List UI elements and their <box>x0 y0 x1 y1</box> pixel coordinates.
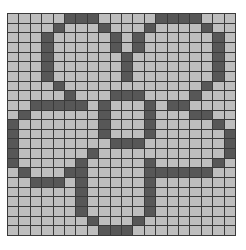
grid-cell[interactable] <box>31 168 41 177</box>
grid-cell[interactable] <box>133 149 143 158</box>
grid-cell[interactable] <box>202 130 212 139</box>
grid-cell[interactable] <box>133 197 143 206</box>
grid-cell[interactable] <box>133 82 143 91</box>
grid-cell[interactable] <box>111 111 121 120</box>
grid-cell[interactable] <box>202 188 212 197</box>
grid-cell[interactable] <box>156 14 166 23</box>
grid-cell[interactable] <box>19 217 29 226</box>
grid-cell[interactable] <box>65 197 75 206</box>
grid-cell[interactable] <box>8 197 18 206</box>
grid-cell[interactable] <box>179 217 189 226</box>
grid-cell[interactable] <box>88 197 98 206</box>
grid-cell[interactable] <box>225 14 235 23</box>
grid-cell[interactable] <box>190 168 200 177</box>
grid-cell[interactable] <box>31 178 41 187</box>
grid-cell[interactable] <box>190 120 200 129</box>
grid-cell[interactable] <box>213 53 223 62</box>
grid-cell[interactable] <box>156 207 166 216</box>
grid-cell[interactable] <box>145 120 155 129</box>
grid-cell[interactable] <box>111 197 121 206</box>
grid-cell[interactable] <box>168 82 178 91</box>
grid-cell[interactable] <box>190 101 200 110</box>
grid-cell[interactable] <box>133 14 143 23</box>
grid-cell[interactable] <box>179 159 189 168</box>
grid-cell[interactable] <box>99 14 109 23</box>
grid-cell[interactable] <box>202 62 212 71</box>
grid-cell[interactable] <box>8 43 18 52</box>
grid-cell[interactable] <box>111 159 121 168</box>
grid-cell[interactable] <box>42 168 52 177</box>
grid-cell[interactable] <box>202 82 212 91</box>
grid-cell[interactable] <box>65 62 75 71</box>
grid-cell[interactable] <box>76 168 86 177</box>
grid-cell[interactable] <box>88 62 98 71</box>
grid-cell[interactable] <box>111 217 121 226</box>
grid-cell[interactable] <box>76 139 86 148</box>
grid-cell[interactable] <box>190 111 200 120</box>
grid-cell[interactable] <box>145 207 155 216</box>
grid-cell[interactable] <box>76 43 86 52</box>
grid-cell[interactable] <box>133 43 143 52</box>
grid-cell[interactable] <box>122 139 132 148</box>
grid-cell[interactable] <box>54 62 64 71</box>
grid-cell[interactable] <box>42 159 52 168</box>
grid-cell[interactable] <box>54 217 64 226</box>
grid-cell[interactable] <box>65 178 75 187</box>
grid-cell[interactable] <box>225 33 235 42</box>
grid-cell[interactable] <box>145 33 155 42</box>
grid-cell[interactable] <box>88 72 98 81</box>
grid-cell[interactable] <box>31 33 41 42</box>
grid-cell[interactable] <box>111 168 121 177</box>
grid-cell[interactable] <box>88 111 98 120</box>
grid-cell[interactable] <box>65 82 75 91</box>
grid-cell[interactable] <box>168 226 178 235</box>
grid-cell[interactable] <box>168 101 178 110</box>
grid-cell[interactable] <box>122 149 132 158</box>
grid-cell[interactable] <box>42 120 52 129</box>
grid-cell[interactable] <box>42 14 52 23</box>
grid-cell[interactable] <box>190 24 200 33</box>
grid-cell[interactable] <box>225 53 235 62</box>
grid-cell[interactable] <box>65 101 75 110</box>
grid-cell[interactable] <box>65 33 75 42</box>
grid-cell[interactable] <box>122 197 132 206</box>
grid-cell[interactable] <box>145 226 155 235</box>
grid-cell[interactable] <box>31 111 41 120</box>
grid-cell[interactable] <box>190 82 200 91</box>
grid-cell[interactable] <box>225 159 235 168</box>
grid-cell[interactable] <box>225 111 235 120</box>
grid-cell[interactable] <box>76 188 86 197</box>
grid-cell[interactable] <box>42 207 52 216</box>
grid-cell[interactable] <box>145 24 155 33</box>
grid-cell[interactable] <box>225 207 235 216</box>
grid-cell[interactable] <box>225 82 235 91</box>
grid-cell[interactable] <box>213 188 223 197</box>
grid-cell[interactable] <box>111 207 121 216</box>
grid-cell[interactable] <box>31 53 41 62</box>
grid-cell[interactable] <box>76 178 86 187</box>
grid-cell[interactable] <box>19 53 29 62</box>
grid-cell[interactable] <box>133 120 143 129</box>
grid-cell[interactable] <box>19 24 29 33</box>
grid-cell[interactable] <box>8 24 18 33</box>
grid-cell[interactable] <box>111 120 121 129</box>
grid-cell[interactable] <box>8 217 18 226</box>
grid-cell[interactable] <box>179 168 189 177</box>
grid-cell[interactable] <box>168 72 178 81</box>
grid-cell[interactable] <box>168 53 178 62</box>
grid-cell[interactable] <box>145 178 155 187</box>
grid-cell[interactable] <box>111 72 121 81</box>
grid-cell[interactable] <box>8 33 18 42</box>
grid-cell[interactable] <box>122 120 132 129</box>
grid-cell[interactable] <box>65 207 75 216</box>
grid-cell[interactable] <box>122 62 132 71</box>
grid-cell[interactable] <box>19 188 29 197</box>
grid-cell[interactable] <box>168 43 178 52</box>
grid-cell[interactable] <box>225 101 235 110</box>
grid-cell[interactable] <box>145 53 155 62</box>
grid-cell[interactable] <box>8 207 18 216</box>
grid-cell[interactable] <box>225 91 235 100</box>
grid-cell[interactable] <box>42 217 52 226</box>
grid-cell[interactable] <box>179 178 189 187</box>
grid-cell[interactable] <box>225 120 235 129</box>
